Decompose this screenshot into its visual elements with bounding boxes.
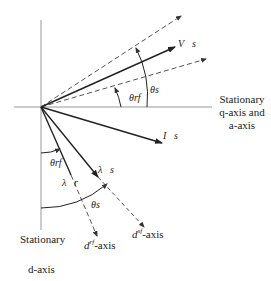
- d-sf-axis-suffix: -axis: [142, 228, 163, 240]
- theta-rf-bottom-label: θrf: [50, 156, 62, 169]
- theta-rf-bottom-arc: [41, 149, 60, 153]
- q-axis-label: Stationary q-axis and a-axis: [213, 93, 271, 132]
- theta-rf-top-arc: [115, 88, 121, 107]
- d-sf-axis-label: dsf-axis: [132, 225, 164, 241]
- theta-s-top-label: θs: [150, 83, 159, 96]
- theta-s-bottom-label: θs: [91, 198, 100, 211]
- d-axis-label-line1: Stationary: [20, 233, 65, 246]
- vs-label: V⃗s: [178, 37, 196, 50]
- q-axis-label-line1: Stationary: [213, 93, 271, 106]
- is-vector: [41, 107, 162, 143]
- d-rf-axis-suffix: -axis: [94, 239, 115, 251]
- lambda-r-label: λ⃗r: [62, 176, 78, 189]
- dashed-line-upper: [41, 16, 181, 107]
- theta-rf-top-label: θrf: [129, 91, 141, 104]
- d-rf-axis-label: drf-axis: [84, 236, 116, 252]
- q-axis-label-line3: a-axis: [213, 119, 271, 132]
- is-label: I⃗s: [163, 129, 178, 142]
- q-axis-label-line2: q-axis and: [213, 106, 271, 119]
- d-axis-label-line2: d-axis: [28, 263, 55, 276]
- vs-vector: [41, 47, 175, 107]
- lambda-s-label: λ⃗s: [98, 163, 114, 176]
- dashed-line-middle: [41, 59, 206, 107]
- phasor-diagram: V⃗s I⃗s λ⃗s λ⃗r θrf θs θrf θs Stationary…: [0, 0, 271, 281]
- d-sf-axis-dashed: [98, 177, 144, 227]
